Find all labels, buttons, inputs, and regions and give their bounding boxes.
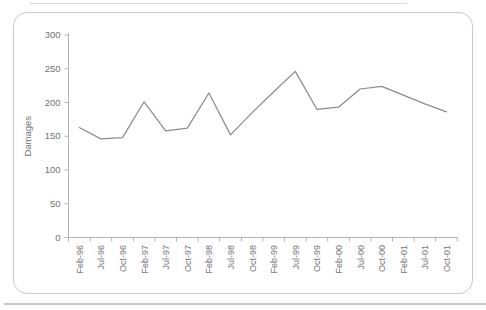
x-axis-tick-label: Feb-96 bbox=[75, 245, 85, 274]
x-axis-tick-label: Oct-00 bbox=[377, 245, 387, 272]
y-axis-tick-label: 250 bbox=[45, 63, 61, 74]
x-axis-tick-label: Jul-96 bbox=[96, 245, 106, 270]
x-axis-tick-label: Jul-00 bbox=[356, 245, 366, 270]
x-axis-tick-label: Jul-99 bbox=[291, 245, 301, 270]
x-axis-tick-label: Oct-01 bbox=[442, 245, 452, 272]
y-axis-tick-label: 200 bbox=[45, 97, 61, 108]
x-axis-tick-label: Feb-98 bbox=[204, 245, 214, 274]
x-axis-tick-label: Oct-98 bbox=[248, 245, 258, 272]
x-axis-tick-label: Jul-97 bbox=[161, 245, 171, 270]
y-axis-tick-label: 100 bbox=[45, 164, 61, 175]
x-axis-tick-label: Feb-00 bbox=[334, 245, 344, 274]
x-axis-tick-label: Oct-99 bbox=[312, 245, 322, 272]
damages-line-chart: 050100150200250300Feb-96Jul-96Oct-96Feb-… bbox=[0, 0, 486, 310]
y-axis-tick-label: 300 bbox=[45, 29, 61, 40]
x-axis-tick-label: Jul-98 bbox=[226, 245, 236, 270]
y-axis-tick-label: 150 bbox=[45, 130, 61, 141]
damages-series-line bbox=[79, 71, 446, 138]
x-axis-tick-label: Jul-01 bbox=[420, 245, 430, 270]
x-axis-tick-label: Oct-97 bbox=[183, 245, 193, 272]
y-axis-tick-label: 50 bbox=[50, 198, 61, 209]
x-axis-tick-label: Feb-99 bbox=[269, 245, 279, 274]
y-axis-tick-label: 0 bbox=[55, 232, 60, 243]
y-axis-title: Damages bbox=[22, 116, 33, 157]
x-axis-tick-label: Feb-97 bbox=[140, 245, 150, 274]
x-axis-tick-label: Oct-96 bbox=[118, 245, 128, 272]
x-axis-tick-label: Feb-01 bbox=[399, 245, 409, 274]
page-crop-line-bottom bbox=[4, 303, 486, 305]
page: 050100150200250300Feb-96Jul-96Oct-96Feb-… bbox=[0, 0, 486, 310]
